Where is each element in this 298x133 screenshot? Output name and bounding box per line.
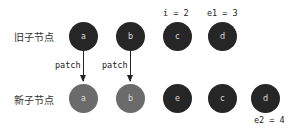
- new-node-c: c: [208, 84, 237, 113]
- node-key: e: [175, 94, 180, 103]
- pointer-e2-label: e2 = 4: [254, 115, 285, 125]
- node-key: d: [220, 32, 225, 41]
- node-key: a: [81, 94, 86, 103]
- new-children-label: 新子节点: [14, 92, 54, 107]
- old-node-c: c: [163, 22, 192, 51]
- pointer-i-label: i = 2: [163, 8, 189, 18]
- node-key: b: [128, 32, 133, 41]
- node-key: c: [220, 94, 224, 103]
- new-node-d: d: [251, 84, 280, 113]
- new-node-a: a: [69, 84, 98, 113]
- new-node-b: b: [116, 84, 145, 113]
- old-node-a: a: [69, 22, 98, 51]
- patch-arrow-a: [83, 51, 84, 81]
- patch-arrow-b: [130, 51, 131, 81]
- old-children-label: 旧子节点: [14, 29, 54, 44]
- patch-label-b: patch: [102, 60, 128, 70]
- pointer-e1-label: e1 = 3: [207, 8, 238, 18]
- old-node-d: d: [208, 22, 237, 51]
- node-key: b: [128, 94, 133, 103]
- old-node-b: b: [116, 22, 145, 51]
- new-node-e: e: [163, 84, 192, 113]
- node-key: d: [263, 94, 268, 103]
- node-key: a: [81, 32, 86, 41]
- patch-label-a: patch: [55, 60, 81, 70]
- node-key: c: [175, 32, 179, 41]
